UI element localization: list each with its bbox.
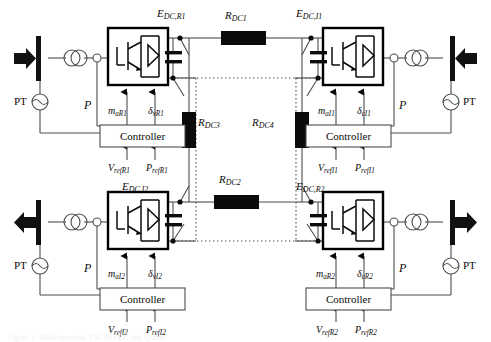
figure-caption: Figure 1. Multi-terminal VSC-HVDC test s… (8, 333, 168, 342)
power-label-r2: P (399, 262, 406, 274)
diag-tie-r1-neg (173, 78, 184, 96)
dc-node-base-r1: E (157, 7, 164, 19)
xfmr-i1-w1 (405, 50, 421, 66)
gate-label-r1-delta: δvR1 (148, 106, 164, 118)
dc-node-label-i2: EDC,I2 (122, 181, 148, 194)
ac-node-i2 (93, 218, 101, 226)
power-label-i1: P (399, 99, 406, 111)
dot-r2-neg (315, 238, 320, 243)
gate-label-r1-ma: maR1 (108, 106, 127, 118)
busbar-i1 (450, 36, 455, 81)
gate-label-i1-ma: maI1 (318, 106, 335, 118)
resistor-label-rdc2: RDC2 (219, 174, 241, 187)
capacitor-i2-plate-top (165, 214, 182, 217)
rdc1-sub: DC1 (232, 14, 247, 23)
ref-label-r2-p: PrefR2 (355, 325, 377, 337)
r2-pref-sub: refR2 (361, 329, 377, 337)
dc-node-label-i1: EDC,I1 (296, 8, 322, 21)
r1-delta-sub: vR1 (153, 110, 164, 118)
rdc2-base: R (219, 173, 226, 185)
controller-label-i1: Controller (306, 130, 391, 142)
capacitor-i1-plate-top (310, 51, 327, 54)
gate-label-i2-delta: δvI2 (148, 269, 162, 281)
diag-tie-i1-pos (302, 38, 311, 55)
dc-node-sub-i2: DC,I2 (129, 185, 149, 194)
dc-node-base-i1: E (296, 7, 303, 19)
dc-node-sub-r2: DC,R2 (303, 185, 325, 194)
figure-canvas: PT PT PT PT P P P P EDC,R1 EDC,I1 EDC,I2… (0, 0, 491, 342)
resistor-rdc1 (221, 31, 266, 45)
gate-label-r2-ma: maR2 (316, 269, 335, 281)
i1-delta-sub: cI1 (362, 110, 371, 118)
dc-node-base-i2: E (122, 180, 129, 192)
diag-tie-i2-neg (173, 224, 184, 241)
power-arrow-r1 (14, 48, 36, 69)
xfmr-r2-w1 (405, 214, 421, 230)
pt-label-i1: PT (463, 96, 476, 107)
wires-group (40, 38, 451, 322)
busbars-group (36, 36, 455, 245)
pt-label-i2: PT (14, 260, 27, 271)
dc-node-sub-r1: DC,R1 (164, 12, 186, 21)
capacitor-i1-plate-bot (310, 60, 327, 63)
rdc3-sub: DC3 (205, 121, 220, 130)
xfmr-i2-w1 (64, 214, 80, 230)
rdc3-base: R (198, 116, 205, 128)
dot-r2-pos (308, 199, 313, 204)
ref-label-i1-v: VrefI1 (318, 163, 338, 175)
controller-label-i2: Controller (100, 293, 185, 305)
dc-node-base-r2: E (296, 180, 303, 192)
rdc2-sub: DC2 (226, 178, 241, 187)
dot-i1-pos (308, 35, 313, 40)
ac-node-r1 (93, 54, 101, 62)
capacitor-r2-plate-top (310, 214, 327, 217)
controller-label-r2: Controller (306, 293, 391, 305)
i1-vref-sub: refI1 (324, 167, 338, 175)
capacitor-r1-plate-bot (165, 60, 182, 63)
r1-vref-sub: refR1 (114, 167, 130, 175)
pt-group (32, 94, 459, 274)
dc-node-label-r2: EDC,R2 (296, 181, 324, 194)
dot-i2-neg (170, 238, 175, 243)
r1-ma-sub: aR1 (115, 110, 127, 118)
power-arrow-i1 (455, 48, 477, 69)
diag-tie-i2-pos (180, 186, 189, 202)
resistor-label-rdc3: RDC3 (198, 117, 220, 130)
gate-label-i1-delta: δcI1 (357, 106, 371, 118)
capacitor-r2-plate-bot (310, 223, 327, 226)
power-label-i2: P (84, 262, 91, 274)
capacitor-r1-plate-top (165, 51, 182, 54)
dot-i2-pos (177, 199, 182, 204)
diag-tie-i1-neg (307, 78, 318, 96)
schematic-svg (0, 0, 491, 342)
gate-label-i2-ma: maI2 (108, 269, 125, 281)
busbar-i2 (36, 200, 41, 245)
r1-pref-sub: refR1 (152, 167, 168, 175)
r2-vref-sub: refR2 (322, 329, 338, 337)
pt-label-r2: PT (463, 260, 476, 271)
power-arrow-i2 (14, 212, 36, 233)
ref-label-i1-p: PrefI1 (355, 163, 375, 175)
controller-label-r1: Controller (100, 130, 185, 142)
ref-label-r1-p: PrefR1 (146, 163, 168, 175)
ac-node-i1 (390, 54, 398, 62)
busbar-r1 (36, 36, 41, 81)
dot-r1-neg (170, 75, 175, 80)
r2-delta-sub: cR2 (362, 273, 373, 281)
ref-label-r2-v: VrefR2 (316, 325, 338, 337)
busbar-r2 (450, 200, 455, 245)
capacitor-i2-plate-bot (165, 223, 182, 226)
gate-label-r2-delta: δcR2 (357, 269, 373, 281)
dot-r1-pos (177, 35, 182, 40)
resistor-label-rdc4: RDC4 (252, 117, 274, 130)
power-arrow-r2 (455, 212, 477, 233)
pt-label-r1: PT (14, 96, 27, 107)
i2-ma-sub: aI2 (115, 273, 125, 281)
ac-node-r2 (390, 218, 398, 226)
xfmr-r1-w1 (64, 50, 80, 66)
rdc4-sub: DC4 (259, 121, 274, 130)
resistor-rdc2 (214, 195, 259, 209)
dc-node-label-r1: EDC,R1 (157, 8, 185, 21)
resistor-label-rdc1: RDC1 (225, 10, 247, 23)
diag-tie-r2-neg (307, 224, 318, 241)
